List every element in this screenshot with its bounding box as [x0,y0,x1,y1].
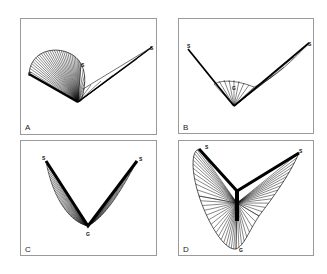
marker-s: S [187,43,190,49]
marker-g: G [86,231,90,237]
panel-d-plot [179,141,315,257]
panel-label: C [25,245,31,254]
panel-b-plot [179,19,315,135]
panel-label: A [25,123,30,132]
marker-s: S [81,62,84,68]
panel-label: D [183,245,189,254]
marker-s: S [42,155,45,161]
marker-s: S [299,148,302,154]
panel-a-plot [21,19,158,136]
panel-c: S S G C [20,140,157,256]
panel-label: B [183,123,188,132]
marker-s: S [150,45,153,51]
marker-s: S [205,144,208,150]
marker-g: G [232,85,236,91]
panel-a: G S S A [20,18,157,135]
marker-s: S [308,41,311,47]
marker-g: G [28,71,32,77]
marker-g: G [239,247,243,253]
panel-b: S G S B [178,18,314,134]
panel-d: S S G D [178,140,314,256]
marker-s: S [139,156,142,162]
